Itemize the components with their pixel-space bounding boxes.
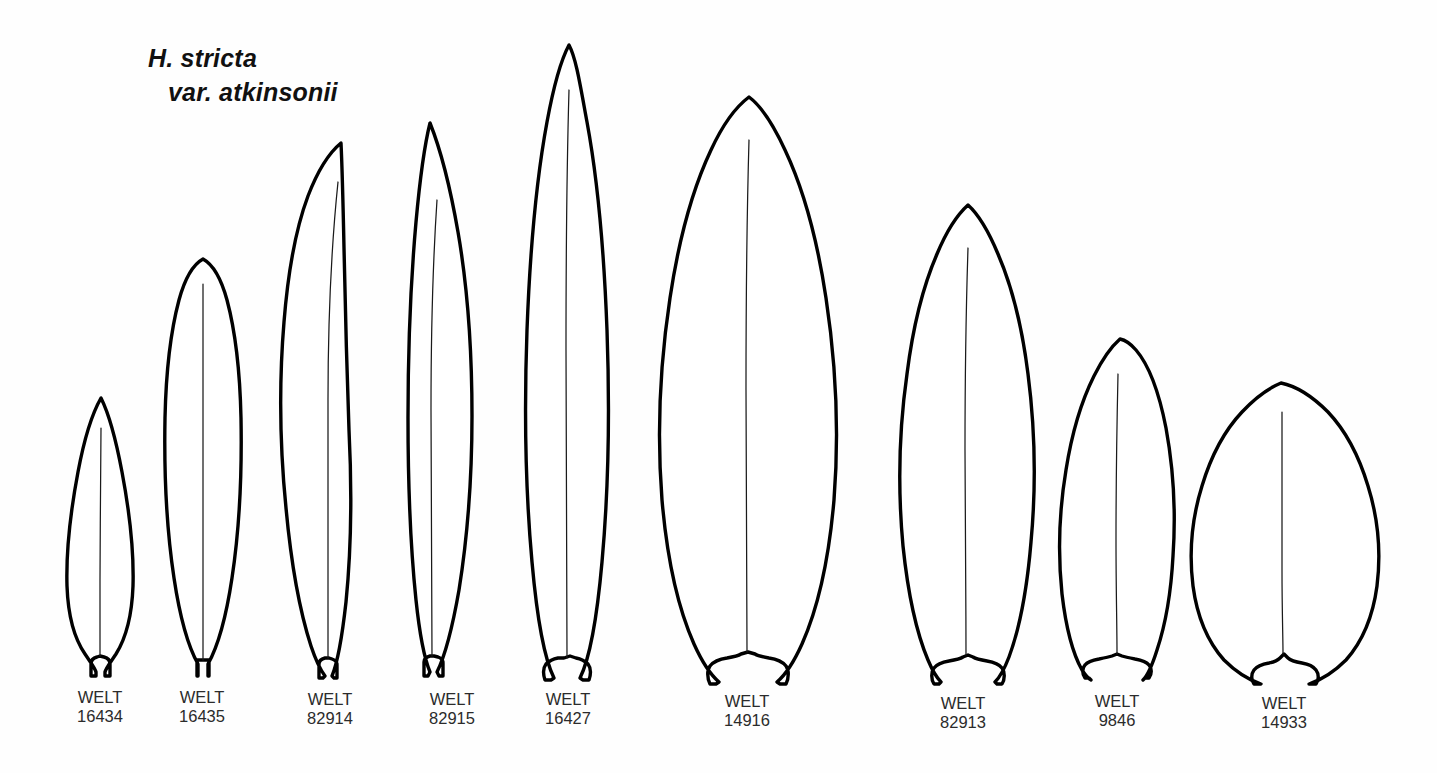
leaf-specimen-82914 bbox=[281, 143, 351, 678]
leaf-specimen-16434 bbox=[67, 398, 133, 676]
specimen-institution: WELT bbox=[1261, 694, 1307, 713]
specimen-label: WELT 82915 bbox=[429, 690, 475, 728]
leaf-specimen-16435 bbox=[165, 259, 241, 676]
leaf-specimen-14916 bbox=[660, 97, 837, 684]
leaf-outline-14933 bbox=[1191, 383, 1378, 684]
leaf-specimen-82913 bbox=[900, 205, 1034, 684]
leaf-specimen-14933 bbox=[1191, 383, 1378, 684]
leaf-drawings bbox=[0, 0, 1437, 773]
specimen-number: 16427 bbox=[545, 709, 591, 728]
leaf-outline-plate: H. stricta var. atkinsonii WELT 16434 WE… bbox=[0, 0, 1437, 773]
specimen-label: WELT 16427 bbox=[545, 690, 591, 728]
taxon-variety: var. atkinsonii bbox=[168, 78, 338, 107]
specimen-label: WELT 14916 bbox=[724, 692, 770, 730]
specimen-institution: WELT bbox=[940, 694, 986, 713]
leaf-specimen-16427 bbox=[526, 45, 609, 680]
specimen-label: WELT 14933 bbox=[1261, 694, 1307, 732]
leaf-outline-82914 bbox=[281, 143, 351, 678]
specimen-label: WELT 9846 bbox=[1095, 692, 1140, 730]
specimen-number: 82913 bbox=[940, 713, 986, 732]
specimen-institution: WELT bbox=[307, 690, 353, 709]
leaf-specimen-9846 bbox=[1060, 339, 1174, 680]
leaf-specimen-82915 bbox=[408, 123, 472, 676]
specimen-number: 14933 bbox=[1261, 713, 1307, 732]
specimen-institution: WELT bbox=[429, 690, 475, 709]
specimen-institution: WELT bbox=[545, 690, 591, 709]
taxon-genus-species: H. stricta bbox=[148, 44, 257, 73]
specimen-number: 16435 bbox=[179, 707, 225, 726]
specimen-number: 16434 bbox=[77, 707, 123, 726]
specimen-institution: WELT bbox=[179, 688, 225, 707]
specimen-label: WELT 82914 bbox=[307, 690, 353, 728]
specimen-label: WELT 16435 bbox=[179, 688, 225, 726]
specimen-number: 9846 bbox=[1095, 711, 1140, 730]
specimen-institution: WELT bbox=[724, 692, 770, 711]
specimen-institution: WELT bbox=[1095, 692, 1140, 711]
specimen-number: 82915 bbox=[429, 709, 475, 728]
specimen-number: 82914 bbox=[307, 709, 353, 728]
specimen-label: WELT 82913 bbox=[940, 694, 986, 732]
specimen-label: WELT 16434 bbox=[77, 688, 123, 726]
leaf-outline-82915 bbox=[408, 123, 472, 676]
specimen-number: 14916 bbox=[724, 711, 770, 730]
specimen-institution: WELT bbox=[77, 688, 123, 707]
